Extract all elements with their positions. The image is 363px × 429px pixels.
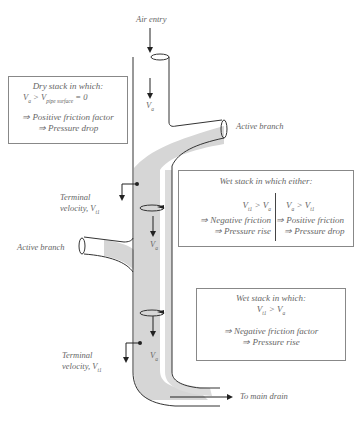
terminal-velocity-label-1: Terminal velocity, Vt1 [60,192,100,218]
wet-stack-title: Wet stack in which: [197,293,345,304]
va-label-bottom: Va [150,350,158,365]
dry-stack-pressure: ⇒ Pressure drop [9,123,127,134]
active-branch-left-label: Active branch [17,242,64,253]
wet-either-title: Wet stack in which either: [179,176,353,187]
dry-stack-box: Dry stack in which: Va > Vpipe surface =… [8,76,128,144]
wet-stack-pressure: ⇒ Pressure rise [197,337,345,348]
air-entry-label: Air entry [136,14,166,25]
wet-either-left: Vt1 > Va ⇒ Negative friction ⇒ Pressure … [181,200,271,237]
wet-stack-box: Wet stack in which: Vt1 > Va ⇒ Negative … [196,288,346,361]
va-label-top: Va [146,100,154,115]
terminal-velocity-label-2: Terminal velocity, Vt1 [62,350,102,376]
wet-stack-friction: ⇒ Negative friction factor [197,326,345,337]
dry-stack-friction: ⇒ Positive friction factor [9,112,127,123]
active-branch-top-label: Active branch [236,121,283,132]
wet-either-right: Va > Vt1 ⇒ Positive friction ⇒ Pressure … [276,200,354,237]
wet-stack-either-box: Wet stack in which either: Vt1 > Va ⇒ Ne… [178,170,354,247]
dry-stack-title: Dry stack in which: [9,81,127,92]
va-label-middle: Va [150,239,158,254]
dry-stack-condition: Va > Vpipe surface = 0 [9,92,127,107]
to-main-drain-label: To main drain [240,391,288,402]
wet-stack-condition: Vt1 > Va [197,304,345,319]
